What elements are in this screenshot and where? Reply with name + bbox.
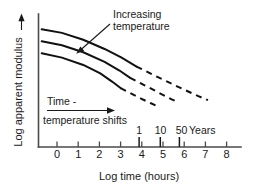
x-tick-label-5: 5 [160,148,166,160]
x-tick-label-6: 6 [181,148,187,160]
years-unit-label: Years [189,124,215,136]
x-tick-label-7: 7 [202,148,208,160]
year-label-1: 1 [136,124,142,136]
x-tick-label-0: 0 [54,148,60,160]
x-tick-label-4: 4 [139,148,145,160]
x-axis-title: Log time (hours) [99,170,179,182]
chart-canvas: 0 1 2 3 4 5 6 7 8 1 10 50 Years Log time… [0,0,258,187]
years-labels: 1 10 50 Years [136,124,215,136]
y-axis-title: Log apparent modulus [12,37,24,147]
year-label-10: 10 [155,124,167,136]
x-tick-labels: 0 1 2 3 4 5 6 7 8 [54,148,230,160]
curve-top-dashed [137,67,208,101]
x-tick-label-1: 1 [75,148,81,160]
increasing-temperature-line2: temperature [113,20,170,32]
curve-bottom-solid [42,53,121,88]
time-temperature-shift-arrow-icon [47,107,115,114]
increasing-temperature-label: Increasing temperature [113,8,170,32]
x-tick-label-2: 2 [96,148,102,160]
x-tick-label-3: 3 [118,148,124,160]
curve-middle-solid [42,41,130,78]
time-temperature-shifts-line2: temperature shifts [43,114,127,126]
x-tick-marks [57,142,227,148]
time-temperature-shifts-line1: Time - [47,95,77,107]
years-tick-marks [139,137,179,147]
y-axis-direction-arrow-icon [18,14,24,31]
curve-middle-dashed [130,78,178,102]
curve-bottom-dashed [121,88,156,105]
chart-figure: 0 1 2 3 4 5 6 7 8 1 10 50 Years Log time… [0,0,258,187]
curve-top-solid [42,29,137,66]
increasing-temperature-line1: Increasing [113,8,162,20]
year-label-50: 50 [176,124,188,136]
x-tick-label-8: 8 [224,148,230,160]
